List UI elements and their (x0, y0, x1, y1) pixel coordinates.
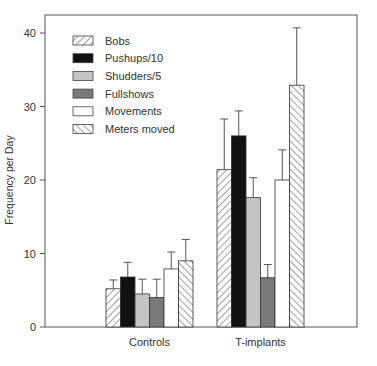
legend-label: Movements (105, 105, 162, 117)
legend-swatch (73, 36, 93, 45)
legend: BobsPushups/10Shudders/5FullshowsMovemen… (73, 35, 175, 136)
bar-pushups-10 (121, 277, 136, 327)
x-axis-labels: ControlsT-implants (129, 336, 286, 348)
legend-label: Fullshows (105, 88, 154, 100)
y-tick-label: 20 (24, 174, 36, 186)
legend-label: Bobs (105, 35, 131, 47)
category-label: T-implants (235, 336, 286, 348)
bar-fullshows (261, 278, 276, 327)
legend-label: Meters moved (105, 123, 175, 135)
bar-meters-moved (179, 261, 194, 327)
bar-movements (164, 269, 179, 327)
bar-movements (275, 180, 290, 327)
legend-swatch (73, 125, 93, 134)
bar-pushups-10 (232, 136, 247, 327)
legend-swatch (73, 71, 93, 80)
category-label: Controls (129, 336, 170, 348)
y-tick-label: 30 (24, 101, 36, 113)
y-tick-label: 10 (24, 248, 36, 260)
legend-label: Pushups/10 (105, 52, 163, 64)
y-axis: 010203040 (24, 27, 45, 333)
legend-label: Shudders/5 (105, 70, 161, 82)
bar-shudders-5 (246, 198, 261, 327)
bar-fullshows (150, 298, 165, 327)
bar-chart: 010203040 ControlsT-implants BobsPushups… (0, 0, 377, 366)
legend-swatch (73, 107, 93, 116)
y-tick-label: 0 (30, 321, 36, 333)
legend-swatch (73, 54, 93, 63)
bar-shudders-5 (135, 294, 150, 327)
bar-bobs (106, 289, 121, 327)
bar-meters-moved (290, 85, 305, 327)
y-axis-label: Frequency per Day (3, 135, 15, 225)
legend-swatch (73, 89, 93, 98)
y-tick-label: 40 (24, 27, 36, 39)
bar-bobs (217, 170, 232, 327)
